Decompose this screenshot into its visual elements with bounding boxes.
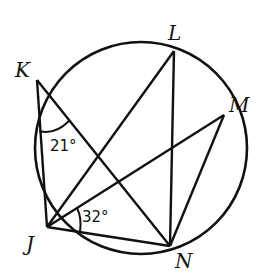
- label-n: N: [174, 249, 194, 273]
- label-k: K: [14, 58, 31, 82]
- segment-mn: [170, 115, 224, 246]
- circle-figure: K L M J N 21° 32°: [0, 0, 277, 275]
- segment-jn: [47, 227, 170, 246]
- geometry-diagram: K L M J N 21° 32°: [0, 0, 277, 275]
- angle-label-j: 32°: [82, 208, 109, 226]
- label-l: L: [167, 21, 181, 45]
- angle-arc-k: [39, 121, 69, 132]
- label-m: M: [228, 93, 250, 117]
- label-j: J: [22, 232, 35, 256]
- angle-arc-j: [77, 208, 81, 232]
- segment-jm: [47, 115, 224, 227]
- angle-label-k: 21°: [50, 137, 77, 155]
